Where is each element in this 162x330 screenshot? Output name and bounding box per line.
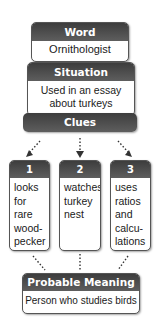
situation-line: Used in an essay xyxy=(28,84,134,97)
clue-box-3: 3 uses ratios and calcu- lations xyxy=(110,160,151,251)
clue-text: uses ratios and calcu- lations xyxy=(111,178,150,249)
clue-line: lations xyxy=(115,235,150,249)
clue-line: for xyxy=(14,195,49,209)
clue-text: looks for rare wood- pecker xyxy=(10,178,49,249)
clue-line: rare xyxy=(14,208,49,222)
clues-header: Clues xyxy=(23,113,137,132)
probable-meaning-box: Probable Meaning Person who studies bird… xyxy=(22,273,140,314)
situation-header: Situation xyxy=(28,63,134,81)
word-header: Word xyxy=(32,23,128,41)
situation-box: Situation Used in an essay about turkeys xyxy=(27,62,135,116)
clue-line: calcu- xyxy=(115,222,150,236)
clue-number: 3 xyxy=(111,161,150,178)
clue-box-1: 1 looks for rare wood- pecker xyxy=(9,160,50,251)
probable-meaning-value: Person who studies birds xyxy=(23,291,139,307)
clue-line: turkey xyxy=(64,195,100,209)
clue-line: uses xyxy=(115,181,150,195)
probable-meaning-header: Probable Meaning xyxy=(23,274,139,291)
clue-line: looks xyxy=(14,181,49,195)
clue-line: wood- xyxy=(14,222,49,236)
clue-text: watches turkey nest xyxy=(60,178,100,222)
clue-number: 1 xyxy=(10,161,49,178)
clue-box-2: 2 watches turkey nest xyxy=(59,160,101,251)
clue-line: nest xyxy=(64,208,100,222)
word-box: Word Ornithologist xyxy=(31,22,129,62)
clue-number: 2 xyxy=(60,161,100,178)
clue-line: pecker xyxy=(14,235,49,249)
situation-line: about turkeys xyxy=(28,97,134,110)
arrow-head-1 xyxy=(26,150,33,157)
clue-line: watches xyxy=(64,181,100,195)
arrow-head-2 xyxy=(76,151,84,158)
clue-line: ratios xyxy=(115,195,150,209)
word-value: Ornithologist xyxy=(32,41,128,56)
situation-text: Used in an essay about turkeys xyxy=(28,81,134,110)
arrow-head-3 xyxy=(125,150,132,157)
clue-line: and xyxy=(115,208,150,222)
